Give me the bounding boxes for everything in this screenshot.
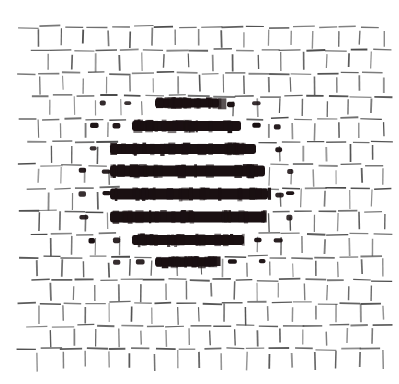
hatch-dash-vertical (362, 259, 363, 274)
bold-dash-dot (274, 124, 281, 129)
bold-dash-dot (113, 123, 121, 128)
hatch-dash-horizontal (306, 50, 325, 51)
hatch-dash-horizontal (18, 303, 36, 304)
emphasis-bar-edge (177, 234, 185, 245)
hatch-dash-horizontal (204, 348, 221, 349)
hatch-dash-horizontal (99, 233, 116, 234)
emphasis-bar-edge (208, 98, 210, 109)
emphasis-bar-edge (180, 211, 185, 224)
hatch-dash-horizontal (54, 188, 70, 189)
hatch-dash-vertical (63, 76, 64, 90)
emphasis-bar-edge (184, 98, 191, 109)
hatch-dash-vertical (151, 261, 152, 276)
hatch-pattern-figure: Halftone hatch texture with emphasized c… (0, 0, 399, 384)
emphasis-bar-edge (162, 257, 169, 268)
emphasis-bar-edge (142, 143, 146, 153)
hatch-dash-vertical (130, 259, 131, 276)
bold-dash-dot (252, 123, 260, 128)
emphasis-bar-edge (154, 165, 163, 178)
bold-dash-dot (113, 260, 120, 265)
emphasis-bar-edge (195, 234, 198, 246)
hatch-dash-vertical (371, 51, 372, 68)
emphasis-bar-edge (263, 211, 266, 222)
emphasis-bar-edge (155, 121, 158, 132)
hatch-dash-vertical (324, 191, 325, 207)
hatch-dash-horizontal (248, 255, 268, 256)
emphasis-bar-edge (244, 211, 248, 223)
emphasis-bar-edge (230, 234, 233, 245)
hatch-dash-vertical (371, 190, 372, 207)
emphasis-bar-edge (181, 188, 188, 201)
hatch-dash-horizontal (31, 279, 49, 280)
emphasis-bar-edge (208, 143, 213, 155)
hatch-dash-vertical (269, 213, 270, 232)
hatch-dash-horizontal (17, 74, 35, 75)
hatch-dash-horizontal (360, 119, 382, 120)
emphasis-bar-edge (200, 187, 205, 200)
hatch-dash-horizontal (222, 27, 244, 28)
hatch-dash-vertical (326, 54, 327, 68)
hatch-dash-horizontal (190, 280, 210, 281)
emphasis-bar-edge (214, 234, 221, 246)
hatch-dash-horizontal (236, 280, 253, 281)
emphasis-bar-edge (172, 120, 177, 130)
hatch-dash-vertical (279, 98, 280, 113)
figure-canvas: Halftone hatch texture with emphasized c… (0, 0, 399, 384)
bold-dash-dot (100, 100, 106, 105)
emphasis-bar-edge (149, 210, 151, 223)
emphasis-bar-edge (123, 211, 132, 223)
hatch-dash-horizontal (374, 234, 393, 235)
emphasis-bar-edge (268, 188, 271, 200)
bold-dash-dot (102, 191, 110, 195)
emphasis-bar-edge (228, 121, 233, 133)
emphasis-bar-edge (146, 120, 152, 131)
emphasis-bar-edge (154, 235, 158, 246)
emphasis-bar-edge (171, 234, 174, 246)
hatch-dash-vertical (313, 169, 314, 186)
hatch-dash-vertical (38, 120, 39, 138)
bold-dash-dot (287, 169, 293, 174)
hatch-dash-vertical (371, 99, 372, 113)
emphasis-bar (110, 164, 265, 178)
hatch-dash-vertical (234, 281, 235, 299)
hatch-dash-vertical (188, 53, 189, 67)
bold-dash-dot (79, 168, 86, 173)
bold-dash-dot (79, 191, 86, 197)
emphasis-bar-edge (156, 257, 161, 267)
hatch-dash-horizontal (319, 27, 337, 28)
emphasis-bar-edge (162, 120, 167, 132)
hatch-dash-horizontal (165, 326, 184, 327)
emphasis-bar-edge (130, 164, 139, 177)
hatch-dash-vertical (327, 285, 328, 300)
emphasis-bar-edge (222, 210, 227, 222)
hatch-dash-vertical (268, 306, 269, 321)
hatch-dash-vertical (199, 307, 200, 321)
bold-dash-dot (90, 146, 97, 150)
hatch-dash-horizontal (246, 119, 263, 120)
hatch-dash-horizontal (88, 166, 106, 167)
emphasis-bar-edge (110, 143, 117, 155)
hatch-dash-horizontal (373, 49, 391, 50)
hatch-dash-vertical (142, 101, 143, 115)
emphasis-bar-edge (223, 234, 229, 246)
bold-dash-dot (124, 101, 131, 105)
emphasis-bar-edge (113, 211, 119, 224)
hatch-dash-vertical (362, 168, 363, 183)
emphasis-bar-edge (144, 165, 148, 176)
hatch-dash-horizontal (291, 258, 313, 259)
bold-dash-dot (274, 238, 283, 242)
bold-dash-dot (259, 259, 266, 263)
bold-dash-dot (286, 191, 294, 195)
hatch-dash-vertical (108, 30, 109, 46)
hatch-dash-horizontal (50, 50, 72, 51)
emphasis-bar-edge (234, 165, 242, 178)
bold-dash-dot (275, 147, 282, 152)
hatch-dash-horizontal (26, 326, 47, 327)
emphasis-bar-edge (183, 143, 190, 154)
emphasis-bar-edge (256, 188, 262, 199)
hatch-dash-horizontal (307, 234, 325, 235)
hatch-dash-horizontal (120, 49, 139, 50)
hatch-dash-vertical (163, 54, 164, 68)
emphasis-bar-edge (185, 120, 189, 131)
emphasis-bar-edge (239, 188, 242, 200)
